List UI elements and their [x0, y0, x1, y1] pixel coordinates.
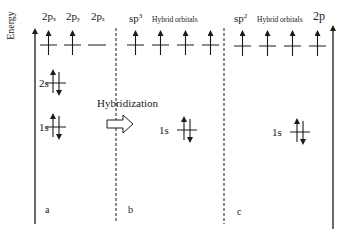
label-1s-c: 1s	[272, 127, 282, 138]
hybridization-arrow-icon	[107, 115, 133, 133]
panel-letter-c: c	[237, 206, 241, 217]
header-sp2: sp2	[234, 11, 247, 24]
orbital-2px	[40, 33, 57, 55]
panel-letter-b: b	[128, 204, 133, 215]
header-sp3: sp3	[129, 11, 142, 24]
orbital-1s-c	[290, 121, 310, 142]
header-2p-c: 2p	[313, 11, 325, 22]
orbital-2p-c	[309, 33, 326, 56]
orbital-sp2-2	[259, 33, 276, 56]
orbital-1s-b	[177, 119, 197, 140]
header-2pz: 2pz	[91, 11, 105, 25]
orbital-1s-a	[46, 116, 66, 137]
orbital-2py	[64, 33, 81, 55]
label-1s-a: 1s	[39, 122, 49, 133]
orbital-sp3-2	[152, 33, 169, 55]
panel-letter-a: a	[45, 204, 49, 215]
header-hybrid-orbitals-c: Hybrid orbitals	[257, 16, 303, 24]
header-2py: 2py	[66, 11, 80, 25]
orbital-sp3-3	[177, 33, 194, 55]
energy-axis-label: Energy	[5, 11, 16, 40]
hybridization-label: Hybridization	[97, 98, 158, 109]
label-2s: 2s	[39, 78, 49, 89]
orbital-sp3-4	[202, 33, 219, 55]
label-1s-b: 1s	[159, 125, 169, 136]
diagram-graphics	[0, 0, 352, 236]
orbital-2s	[46, 72, 66, 93]
orbital-sp2-3	[284, 33, 301, 56]
header-2px: 2px	[42, 11, 56, 25]
orbital-sp3-1	[127, 33, 144, 55]
orbital-sp2-1	[234, 33, 251, 56]
header-hybrid-orbitals-b: Hybrid orbitals	[152, 16, 198, 24]
hybridization-diagram: Energy 2px 2py 2pz 2s 1s Hybridization s…	[0, 0, 352, 236]
